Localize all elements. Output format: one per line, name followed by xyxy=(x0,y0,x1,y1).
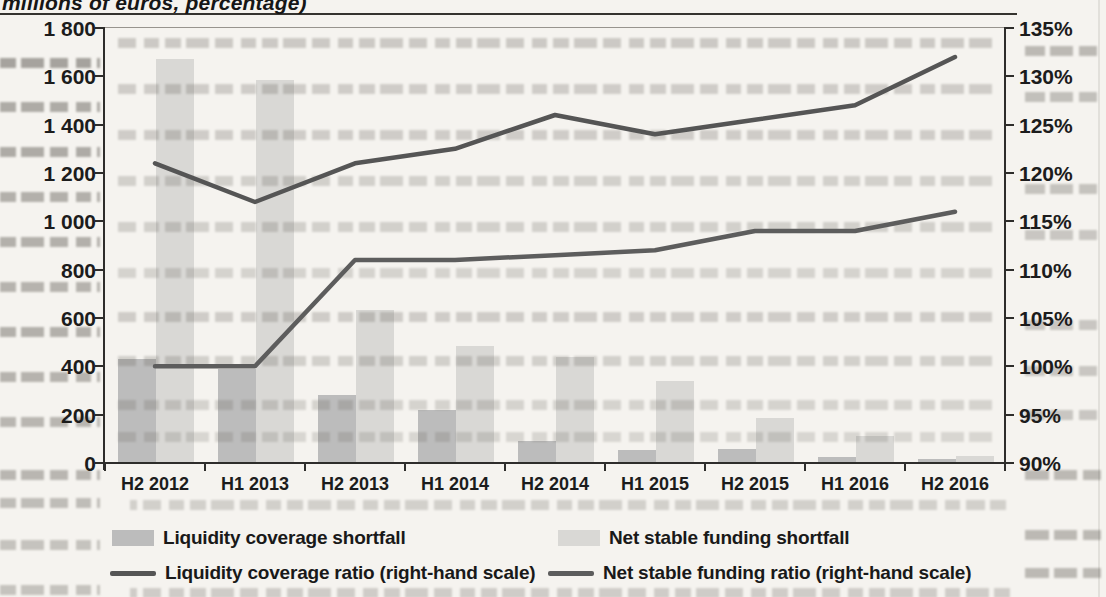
left-axis-tick xyxy=(95,75,104,77)
net-stable-funding-shortfall-bar xyxy=(656,381,694,463)
right-axis-tick xyxy=(1006,172,1014,174)
scanned-text-bleed xyxy=(118,84,998,94)
left-axis-tick-label: 1 400 xyxy=(22,114,96,136)
right-axis-tick xyxy=(1006,75,1014,77)
scanned-document-page: millions of euros, percentage) Liquidity… xyxy=(0,0,1106,597)
x-axis-label-h1-2014: H1 2014 xyxy=(407,474,503,494)
x-axis-label-h2-2015: H2 2015 xyxy=(707,474,803,494)
scanned-text-bleed xyxy=(0,147,100,157)
left-axis-tick xyxy=(95,27,104,29)
scanned-text-bleed xyxy=(1022,92,1102,102)
right-y-axis xyxy=(1004,27,1006,470)
x-axis-label-h2-2014: H2 2014 xyxy=(507,474,603,494)
x-axis-label-h2-2016: H2 2016 xyxy=(907,474,1003,494)
x-axis-label-h2-2012: H2 2012 xyxy=(107,474,203,494)
scanned-text-bleed xyxy=(1022,568,1106,578)
x-axis-tick xyxy=(804,463,806,471)
scanned-text-bleed xyxy=(118,222,998,232)
x-axis-label-h1-2016: H1 2016 xyxy=(807,474,903,494)
scanned-text-bleed xyxy=(1022,530,1106,540)
legend-label: Liquidity coverage ratio (right-hand sca… xyxy=(165,562,535,584)
net-stable-funding-ratio-swatch xyxy=(548,571,594,576)
scanned-text-bleed xyxy=(118,130,998,140)
scanned-text-bleed xyxy=(118,38,998,48)
left-axis-tick-label: 0 xyxy=(22,452,96,474)
right-axis-tick-label: 125% xyxy=(1019,114,1099,136)
scanned-text-bleed xyxy=(118,176,998,186)
right-axis-tick xyxy=(1006,124,1014,126)
legend-item-liquidity-coverage-ratio: Liquidity coverage ratio (right-hand sca… xyxy=(110,562,535,584)
x-axis-tick xyxy=(604,463,606,471)
scanned-text-bleed xyxy=(0,585,100,595)
right-axis-tick xyxy=(1006,365,1014,367)
scanned-text-bleed xyxy=(130,588,1010,597)
scanned-text-bleed xyxy=(130,500,1006,510)
liquidity-coverage-ratio-swatch xyxy=(110,571,156,576)
liquidity-coverage-shortfall-swatch xyxy=(112,530,154,546)
scanned-text-bleed xyxy=(118,432,998,442)
scanned-text-bleed xyxy=(0,498,100,508)
x-axis xyxy=(103,462,1006,464)
right-axis-tick xyxy=(1006,317,1014,319)
left-axis-tick xyxy=(95,365,104,367)
left-axis-tick-label: 1 200 xyxy=(22,162,96,184)
left-axis-tick xyxy=(95,317,104,319)
right-axis-tick-label: 120% xyxy=(1019,162,1099,184)
x-axis-label-h1-2015: H1 2015 xyxy=(607,474,703,494)
x-axis-tick xyxy=(404,463,406,471)
left-axis-tick-label: 800 xyxy=(22,259,96,281)
right-axis-tick-label: 115% xyxy=(1019,210,1099,232)
left-axis-tick xyxy=(95,124,104,126)
liquidity-coverage-shortfall-bar xyxy=(218,369,256,463)
scanned-text-bleed xyxy=(0,102,100,112)
right-axis-tick xyxy=(1006,27,1014,29)
scanned-text-bleed xyxy=(1022,184,1102,194)
scanned-text-bleed xyxy=(0,237,100,247)
top-gridline xyxy=(105,27,1005,28)
scanned-text-bleed xyxy=(118,356,998,366)
left-axis-tick-label: 600 xyxy=(22,307,96,329)
liquidity-coverage-shortfall-bar xyxy=(118,359,156,463)
left-axis-tick-label: 1 600 xyxy=(22,65,96,87)
x-axis-tick xyxy=(1004,463,1006,471)
net-stable-funding-shortfall-swatch xyxy=(558,530,600,546)
liquidity-coverage-shortfall-bar xyxy=(718,449,756,464)
legend-label: Net stable funding shortfall xyxy=(609,527,849,549)
x-axis-label-h1-2013: H1 2013 xyxy=(207,474,303,494)
left-axis-tick-label: 200 xyxy=(22,404,96,426)
scanned-text-bleed xyxy=(0,540,100,550)
left-axis-tick xyxy=(95,269,104,271)
left-axis-tick xyxy=(95,220,104,222)
page-edge-line xyxy=(1098,0,1100,597)
left-axis-tick xyxy=(95,462,104,464)
left-axis-tick-label: 400 xyxy=(22,355,96,377)
liquidity-coverage-shortfall-bar xyxy=(618,450,656,463)
legend-label: Liquidity coverage shortfall xyxy=(163,527,406,549)
scanned-text-bleed xyxy=(118,312,998,322)
x-axis-tick xyxy=(704,463,706,471)
right-axis-tick-label: 100% xyxy=(1019,355,1099,377)
liquidity-coverage-shortfall-bar xyxy=(518,441,556,463)
right-axis-tick xyxy=(1006,269,1014,271)
legend-item-liquidity-coverage-shortfall: Liquidity coverage shortfall xyxy=(112,527,406,549)
right-axis-tick-label: 130% xyxy=(1019,65,1099,87)
right-axis-tick-label: 110% xyxy=(1019,259,1099,281)
scanned-text-bleed xyxy=(0,192,100,202)
right-axis-tick xyxy=(1006,220,1014,222)
left-axis-tick-label: 1 000 xyxy=(22,210,96,232)
scanned-text-bleed xyxy=(118,268,998,278)
right-axis-tick-label: 135% xyxy=(1019,17,1099,39)
x-axis-tick xyxy=(104,463,106,471)
x-axis-tick xyxy=(904,463,906,471)
right-axis-tick-label: 105% xyxy=(1019,307,1099,329)
scanned-text-bleed xyxy=(1022,46,1102,56)
right-axis-tick-label: 90% xyxy=(1019,452,1099,474)
legend-item-net-stable-funding-ratio: Net stable funding ratio (right-hand sca… xyxy=(548,562,971,584)
right-axis-tick xyxy=(1006,462,1014,464)
scanned-text-bleed xyxy=(118,400,998,410)
x-axis-tick xyxy=(304,463,306,471)
left-axis-tick xyxy=(95,172,104,174)
right-axis-tick-label: 95% xyxy=(1019,404,1099,426)
chart-subtitle: millions of euros, percentage) xyxy=(2,0,622,15)
legend-label: Net stable funding ratio (right-hand sca… xyxy=(603,562,971,584)
